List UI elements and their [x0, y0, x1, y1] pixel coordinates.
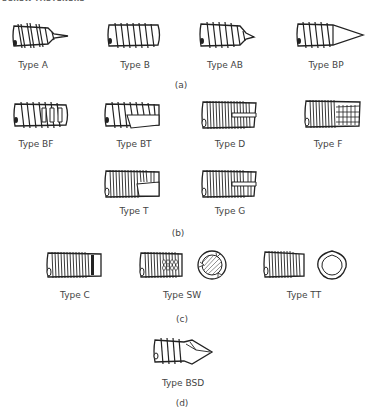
screw-type-ab-drawing	[198, 19, 258, 51]
group-caption: (c)	[176, 314, 188, 324]
page-header-cropped: SCREW FASTENERS	[2, 0, 110, 4]
screw-type-label: Type BT	[116, 139, 151, 149]
screw-type-bt-drawing	[103, 100, 163, 130]
group-caption: (d)	[176, 398, 189, 408]
screw-type-bp-drawing	[295, 19, 367, 51]
screw-type-label: Type BSD	[162, 378, 204, 388]
screw-type-label: Type BF	[19, 139, 54, 149]
screw-type-label: Type B	[120, 60, 150, 70]
screw-type-label: Type BP	[308, 60, 343, 70]
screw-type-label: Type D	[215, 139, 245, 149]
screw-type-tt-drawing	[262, 249, 350, 281]
group-caption: (b)	[172, 228, 185, 238]
screw-type-label: Type T	[119, 206, 148, 216]
screw-type-bsd-drawing	[152, 336, 216, 366]
screw-type-f-drawing	[303, 98, 363, 130]
screw-type-sw-drawing	[138, 250, 230, 280]
screw-type-label: Type C	[60, 290, 90, 300]
screw-type-label: Type AB	[207, 60, 243, 70]
screw-type-b-drawing	[106, 20, 162, 50]
screw-type-d-drawing	[200, 99, 258, 131]
screw-type-label: Type TT	[287, 290, 321, 300]
screw-type-c-drawing	[45, 250, 105, 280]
group-caption: (a)	[175, 80, 188, 90]
screw-type-label: Type F	[314, 139, 343, 149]
screw-type-bf-drawing	[12, 100, 70, 130]
screw-type-label: Type SW	[163, 290, 201, 300]
screw-type-label: Type G	[215, 206, 246, 216]
screw-type-label: Type A	[18, 60, 48, 70]
screw-type-g-drawing	[200, 168, 258, 200]
screw-type-a-drawing	[10, 18, 70, 52]
screw-type-t-drawing	[103, 168, 163, 200]
